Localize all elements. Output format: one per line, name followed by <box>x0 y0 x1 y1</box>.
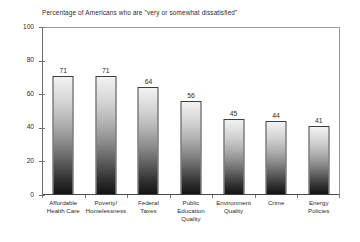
bar-group: 64 <box>127 27 170 195</box>
y-axis-inner-tick <box>42 27 45 28</box>
x-axis-category-label-line: Poverty/ <box>85 199 128 207</box>
bar <box>308 126 329 195</box>
bar-value-label: 64 <box>145 78 153 85</box>
bars-layer: 71716456454441 <box>42 27 340 195</box>
y-axis-inner-tick <box>42 195 45 196</box>
x-axis-category-label-line: Policies <box>297 207 340 215</box>
bar <box>180 101 201 195</box>
bar <box>95 76 116 195</box>
y-axis-inner-tick <box>42 128 45 129</box>
x-axis-category-label: FederalTaxes <box>127 199 170 215</box>
x-axis-category-label-line: Health Care <box>42 207 85 215</box>
bar-group: 41 <box>297 27 340 195</box>
x-axis-tick-mark <box>85 195 86 198</box>
y-axis-tick-label: 80 <box>27 56 34 63</box>
y-axis-inner-tick <box>42 161 45 162</box>
bar <box>138 87 159 195</box>
x-axis-tick-mark <box>170 195 171 198</box>
x-axis-tick-mark <box>339 195 340 198</box>
chart-title: Percentage of Americans who are "very or… <box>42 9 238 16</box>
x-axis-labels: AffordableHealth CarePoverty/Homelessnes… <box>42 199 340 239</box>
bar-chart: Percentage of Americans who are "very or… <box>0 0 360 242</box>
x-axis-category-label: Crime <box>255 199 298 207</box>
x-axis-category-label: PublicEducationQuality <box>170 199 213 224</box>
y-axis-tick-label: 60 <box>27 90 34 97</box>
x-axis-category-label-line: Taxes <box>127 207 170 215</box>
bar-group: 56 <box>170 27 213 195</box>
x-axis-category-label: EnvironmentQuality <box>212 199 255 215</box>
y-axis-tick-label: 20 <box>27 157 34 164</box>
x-axis-category-label: Poverty/Homelessness <box>85 199 128 215</box>
bar-value-label: 56 <box>187 92 195 99</box>
y-axis-tick-label: 40 <box>27 123 34 130</box>
x-axis-category-label-line: Federal <box>127 199 170 207</box>
x-axis-category-label-line: Energy <box>297 199 340 207</box>
bar <box>266 121 287 195</box>
bar-value-label: 44 <box>272 112 280 119</box>
x-axis-category-label-line: Environment <box>212 199 255 207</box>
x-axis-category-label-line: Quality <box>170 215 213 223</box>
y-axis: 020406080100 <box>0 27 42 196</box>
bar-group: 44 <box>255 27 298 195</box>
x-axis-category-label-line: Homelessness <box>85 207 128 215</box>
bar-value-label: 71 <box>60 67 68 74</box>
x-axis-category-label-line: Affordable <box>42 199 85 207</box>
x-axis-tick-mark <box>255 195 256 198</box>
bar-group: 45 <box>212 27 255 195</box>
x-axis-category-label-line: Crime <box>255 199 298 207</box>
bar-value-label: 45 <box>230 110 238 117</box>
y-axis-tick-label: 0 <box>30 191 34 198</box>
y-axis-inner-tick <box>42 94 45 95</box>
y-axis-tick-label: 100 <box>23 23 34 30</box>
bar-value-label: 41 <box>315 117 323 124</box>
y-axis-inner-tick <box>42 61 45 62</box>
x-axis-category-label-line: Quality <box>212 207 255 215</box>
bar-value-label: 71 <box>102 67 110 74</box>
bar-group: 71 <box>85 27 128 195</box>
bar <box>223 119 244 195</box>
bar-group: 71 <box>42 27 85 195</box>
x-axis-category-label: AffordableHealth Care <box>42 199 85 215</box>
x-axis-tick-mark <box>297 195 298 198</box>
x-axis-tick-mark <box>127 195 128 198</box>
x-axis-category-label: EnergyPolicies <box>297 199 340 215</box>
bar <box>53 76 74 195</box>
x-axis-tick-mark <box>212 195 213 198</box>
x-axis-category-label-line: Education <box>170 207 213 215</box>
x-axis-category-label-line: Public <box>170 199 213 207</box>
